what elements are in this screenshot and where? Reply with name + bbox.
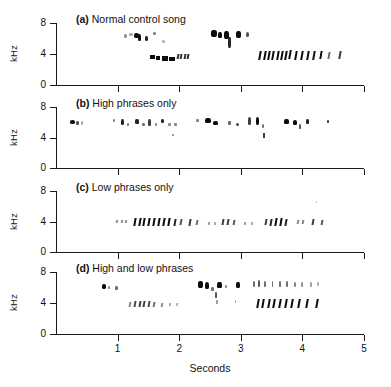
song-note (235, 300, 237, 303)
x-axis-tick-label: 4 (295, 344, 309, 354)
song-note (253, 281, 255, 287)
song-note (297, 299, 301, 308)
song-note (262, 299, 266, 308)
y-axis-tick-label-wrap: 8 (26, 267, 46, 277)
song-note (256, 299, 260, 308)
song-note (305, 299, 309, 308)
plot-area-d (56, 272, 364, 334)
x-axis-tick (118, 335, 119, 341)
x-axis-tick-label: 1 (111, 344, 125, 354)
song-note (272, 281, 274, 287)
song-note (310, 282, 312, 287)
song-note (160, 303, 163, 307)
song-note (108, 286, 110, 289)
song-note (301, 282, 303, 287)
song-note (236, 282, 240, 287)
x-axis-tick (302, 335, 303, 341)
song-note (315, 299, 319, 308)
song-note (217, 282, 221, 288)
x-axis-tick (241, 335, 242, 341)
y-axis-title: kHz (8, 288, 19, 318)
x-axis-tick (179, 335, 180, 341)
song-note (278, 299, 282, 308)
song-note (273, 299, 277, 308)
song-note (205, 282, 209, 289)
song-note (215, 292, 217, 298)
spectrogram-figure: 840kHz(a) Normal control song840kHz(b) H… (0, 0, 391, 387)
song-note (264, 281, 266, 287)
x-axis-title: Seconds (150, 362, 270, 374)
song-note (294, 282, 296, 287)
x-axis-line (56, 334, 364, 335)
song-note (115, 286, 117, 290)
song-note (211, 287, 213, 291)
song-note (148, 301, 151, 307)
y-axis-tick-label: 0 (32, 329, 46, 339)
panel-d: 840kHz12345(d) High and low phrases (0, 0, 391, 387)
song-note (133, 301, 136, 307)
y-axis-tick-label-wrap: 0 (26, 329, 46, 339)
song-note (258, 280, 260, 287)
x-axis-tick-label: 3 (234, 344, 248, 354)
song-note (153, 302, 156, 307)
x-axis-tick-label: 5 (357, 344, 371, 354)
x-axis-tick-label: 2 (172, 344, 186, 354)
song-note (225, 285, 227, 288)
song-note (128, 302, 131, 307)
song-note (279, 281, 281, 287)
y-axis-tick-label-wrap: 4 (26, 298, 46, 308)
song-note (198, 281, 203, 288)
song-note (138, 301, 141, 307)
song-note (216, 300, 218, 304)
song-note (284, 299, 288, 308)
song-note (290, 299, 294, 308)
x-axis-tick (364, 335, 365, 341)
song-note (175, 303, 177, 306)
song-note (317, 282, 319, 286)
song-note (267, 299, 271, 308)
song-note (102, 284, 106, 289)
song-note (286, 281, 288, 287)
y-axis-tick-label: 8 (32, 267, 46, 277)
song-note (169, 303, 171, 306)
song-note (143, 301, 146, 307)
y-axis-tick-label: 4 (32, 298, 46, 308)
